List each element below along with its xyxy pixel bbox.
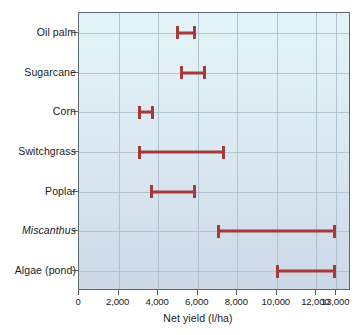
x-axis-tick: [197, 290, 198, 295]
x-axis-tick-label: 8,000: [225, 296, 248, 307]
range-bar-cap-right: [203, 66, 206, 79]
range-bar: [180, 71, 206, 74]
y-axis-label-miscanthus: Miscanthus: [0, 224, 76, 236]
range-chart-figure: Oil palmSugarcaneCornSwitchgrassPoplarMi…: [0, 0, 363, 335]
range-bar-cap-left: [180, 66, 183, 79]
range-bar-cap-right: [193, 26, 196, 39]
vertical-gridline: [119, 13, 120, 289]
y-axis-label-sugarcane: Sugarcane: [0, 66, 76, 78]
plot-area: [78, 12, 350, 290]
horizontal-gridline: [79, 192, 349, 193]
x-axis-tick-label: 6,000: [185, 296, 208, 307]
range-bar-cap-left: [138, 146, 141, 159]
range-bar-cap-right: [333, 265, 336, 278]
range-bar-cap-left: [176, 26, 179, 39]
vertical-gridline: [277, 13, 278, 289]
x-axis-tick: [157, 290, 158, 295]
x-axis-tick: [335, 290, 336, 295]
range-bar: [138, 151, 225, 154]
range-bar: [138, 111, 154, 114]
range-bar-cap-right: [333, 225, 336, 238]
vertical-gridline: [336, 13, 337, 289]
range-bar-cap-left: [150, 185, 153, 198]
range-bar-cap-right: [193, 185, 196, 198]
x-axis-tick-label: 4,000: [145, 296, 168, 307]
range-bar: [176, 31, 196, 34]
x-axis-tick-label: 0: [75, 296, 80, 307]
x-axis-tick-label: 10,000: [262, 296, 290, 307]
y-axis-label-poplar: Poplar: [0, 185, 76, 197]
x-axis-tick: [236, 290, 237, 295]
range-bar-cap-left: [138, 106, 141, 119]
range-bar: [150, 190, 196, 193]
vertical-gridline: [316, 13, 317, 289]
range-bar-cap-right: [222, 146, 225, 159]
x-axis-title: Net yield (l/ha): [0, 312, 363, 324]
y-axis-label-oil-palm: Oil palm: [0, 26, 76, 38]
range-bar: [276, 270, 336, 273]
vertical-gridline: [237, 13, 238, 289]
range-bar-cap-left: [217, 225, 220, 238]
x-axis-tick-label: 2,000: [106, 296, 129, 307]
range-bar: [217, 230, 337, 233]
x-axis-tick: [78, 290, 79, 295]
range-bar-cap-left: [276, 265, 279, 278]
horizontal-gridline: [79, 33, 349, 34]
x-axis-tick: [118, 290, 119, 295]
y-axis-label-corn: Corn: [0, 105, 76, 117]
x-axis-tick-label: 13,000: [321, 296, 349, 307]
horizontal-gridline: [79, 73, 349, 74]
range-bar-cap-right: [151, 106, 154, 119]
y-axis-label-switchgrass: Switchgrass: [0, 145, 76, 157]
horizontal-gridline: [79, 112, 349, 113]
x-axis-tick: [315, 290, 316, 295]
x-axis-tick: [276, 290, 277, 295]
y-axis-label-algae-pond: Algae (pond): [0, 264, 76, 276]
